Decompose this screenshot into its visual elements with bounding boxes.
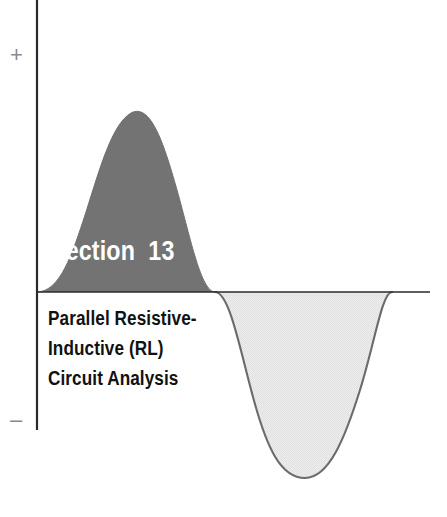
minus-polarity-icon: – [10, 409, 22, 431]
waveform-negative-lobe [215, 292, 392, 478]
section-title-line-1: Parallel Resistive- [48, 303, 197, 333]
section-title-line-3: Circuit Analysis [48, 363, 197, 393]
section-cover-page: + – Section 13 Parallel Resistive- Induc… [0, 0, 447, 517]
section-title-line-2: Inductive (RL) [48, 333, 197, 363]
section-number-label: Section 13 [50, 238, 174, 265]
section-title: Parallel Resistive- Inductive (RL) Circu… [48, 303, 197, 393]
plus-polarity-icon: + [10, 44, 23, 66]
